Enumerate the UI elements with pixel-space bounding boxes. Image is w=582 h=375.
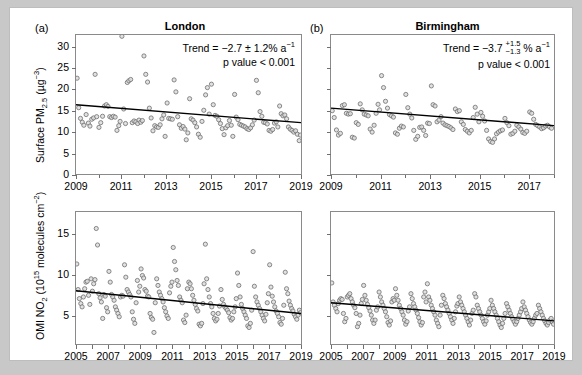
data-point: [383, 99, 387, 103]
data-point: [205, 86, 209, 90]
data-point: [422, 295, 426, 299]
data-point: [442, 297, 446, 301]
data-point: [76, 262, 79, 266]
x-tick-mark: [529, 175, 530, 179]
data-point: [202, 108, 206, 112]
plot-area-london-no2: [75, 211, 302, 345]
data-point: [340, 297, 344, 301]
annotation-pvalue-birmingham: p value < 0.001: [392, 58, 550, 70]
x-tick-mark: [221, 345, 222, 349]
x-minor-tick-mark: [189, 175, 190, 178]
data-point: [484, 319, 488, 323]
data-point: [358, 102, 362, 106]
data-point: [401, 313, 405, 317]
y-tick-mark: [327, 47, 331, 48]
data-point: [94, 226, 98, 230]
y-tick-mark: [72, 316, 76, 317]
data-point: [145, 80, 149, 84]
data-point: [144, 289, 148, 293]
data-point: [166, 316, 170, 320]
data-point: [170, 280, 174, 284]
data-point: [134, 301, 138, 305]
x-tick-mark: [166, 175, 167, 179]
data-point: [280, 316, 284, 320]
data-point: [352, 136, 356, 140]
data-point: [231, 134, 235, 138]
data-point: [500, 128, 504, 132]
data-point: [193, 121, 197, 125]
data-point: [331, 109, 334, 113]
data-point: [229, 123, 233, 127]
x-tick-mark: [538, 345, 539, 349]
data-point: [81, 295, 85, 299]
data-point: [101, 316, 105, 320]
data-point: [287, 299, 291, 303]
data-point: [250, 123, 254, 127]
data-point: [104, 306, 108, 310]
data-point: [433, 104, 437, 108]
data-point: [379, 74, 383, 78]
x-minor-tick-mark: [554, 175, 555, 178]
data-point: [423, 290, 427, 294]
data-point: [282, 303, 286, 307]
data-point: [140, 118, 144, 122]
data-point: [362, 283, 366, 287]
x-tick-label: 2013: [146, 180, 186, 192]
data-point: [97, 125, 101, 129]
data-point: [211, 103, 215, 107]
trend-exponent-london: −1: [286, 40, 295, 49]
data-point: [98, 296, 102, 300]
x-tick-mark: [301, 175, 302, 179]
x-tick-mark: [172, 345, 173, 349]
data-point: [88, 124, 92, 128]
y-tick-mark: [72, 154, 76, 155]
data-point: [388, 319, 392, 323]
annotation-pvalue-london: p value < 0.001: [140, 56, 295, 68]
y-tick-mark: [327, 275, 331, 276]
data-point: [532, 117, 536, 121]
data-point: [162, 306, 166, 310]
data-point: [211, 311, 215, 315]
data-point: [356, 122, 360, 126]
y-tick-mark: [327, 316, 331, 317]
data-point: [353, 306, 357, 310]
y-tick-mark: [327, 132, 331, 133]
data-point: [206, 287, 210, 291]
data-point: [368, 309, 372, 313]
data-point: [429, 84, 433, 88]
data-point: [153, 301, 157, 305]
data-point: [331, 281, 334, 285]
data-point: [209, 82, 213, 86]
data-point: [130, 310, 134, 314]
x-tick-mark: [256, 175, 257, 179]
y-tick-label: 25: [40, 61, 69, 73]
x-tick-mark: [458, 345, 459, 349]
data-point: [176, 283, 180, 287]
x-minor-tick-mark: [504, 175, 505, 178]
data-point: [451, 321, 455, 325]
data-point: [492, 137, 496, 141]
y-tick-mark: [327, 111, 331, 112]
trend-line: [76, 105, 301, 123]
data-point: [264, 312, 268, 316]
data-point: [207, 295, 211, 299]
data-point: [188, 97, 192, 101]
y-tick-label: 5: [40, 309, 69, 321]
data-point: [227, 118, 231, 122]
data-point: [95, 243, 99, 247]
y-tick-label: 15: [40, 104, 69, 116]
x-tick-mark: [140, 345, 141, 349]
data-point: [265, 122, 269, 126]
data-point: [410, 297, 414, 301]
x-minor-tick-mark: [234, 175, 235, 178]
x-tick-mark: [76, 175, 77, 179]
data-point: [107, 269, 111, 273]
data-point: [82, 123, 86, 127]
data-point: [549, 126, 553, 130]
data-point: [100, 114, 104, 118]
data-point: [395, 293, 399, 297]
data-point: [381, 86, 385, 90]
data-point: [188, 282, 192, 286]
data-point: [103, 294, 107, 298]
figure-canvas: (a) London Surface PM2.5 (µg−3) 05101520…: [10, 8, 572, 360]
